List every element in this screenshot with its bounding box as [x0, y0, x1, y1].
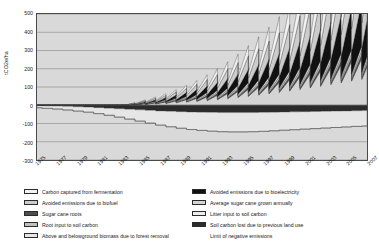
stacked-area-plot: [37, 14, 367, 160]
legend-swatch: [192, 200, 206, 205]
legend-item[interactable]: Carbon captured from fermentation: [24, 186, 169, 197]
legend-label: Above and belowground biomass due to for…: [42, 233, 169, 239]
legend-swatch: [192, 222, 206, 227]
x-axis-ticks: 1975197719791981198319851987198919911993…: [36, 162, 368, 186]
legend-column-left: Carbon captured from fermentationAvoided…: [24, 186, 169, 241]
chart-legend: Carbon captured from fermentationAvoided…: [0, 186, 379, 242]
legend-label: Sugar cane roots: [42, 211, 82, 217]
y-axis-tick-label: -100: [1, 121, 33, 127]
y-axis-ticks: 5004003002001000-100-200-300: [0, 0, 33, 161]
legend-item[interactable]: Above and belowground biomass due to for…: [24, 230, 169, 241]
y-axis-tick-label: 0: [1, 103, 33, 109]
legend-item[interactable]: Sugar cane roots: [24, 208, 169, 219]
legend-label: Avoided emissions due to bioelectricity: [210, 189, 299, 195]
legend-label: Root input to soil carbon: [42, 222, 98, 228]
legend-label: Soil carbon lost due to previous land us…: [210, 222, 303, 228]
y-axis-tick-label: 300: [1, 47, 33, 53]
legend-swatch: [192, 189, 206, 194]
legend-swatch: [192, 211, 206, 216]
legend-line-marker: [192, 233, 206, 238]
y-axis-tick-label: 500: [1, 10, 33, 16]
legend-item[interactable]: Limit of negative emissions: [192, 230, 303, 241]
legend-swatch: [24, 189, 38, 194]
legend-item[interactable]: Avoided emissions due to bioelectricity: [192, 186, 303, 197]
legend-column-right: Avoided emissions due to bioelectricityA…: [192, 186, 303, 241]
legend-item[interactable]: Soil carbon lost due to previous land us…: [192, 219, 303, 230]
legend-item[interactable]: Average sugar cane grown annually: [192, 197, 303, 208]
legend-item[interactable]: Root input to soil carbon: [24, 219, 169, 230]
legend-label: Limit of negative emissions: [210, 233, 272, 239]
legend-label: Avoided emissions due to biofuel: [42, 200, 118, 206]
chart-screenshot: tCO2e/ha 5004003002001000-100-200-300 19…: [0, 0, 379, 242]
plot-area: [36, 13, 368, 161]
legend-item[interactable]: Avoided emissions due to biofuel: [24, 197, 169, 208]
y-axis-tick-label: 200: [1, 66, 33, 72]
y-axis-tick-label: 100: [1, 84, 33, 90]
y-axis-tick-label: 400: [1, 29, 33, 35]
legend-swatch: [24, 200, 38, 205]
legend-swatch: [24, 222, 38, 227]
legend-label: Average sugar cane grown annually: [210, 200, 293, 206]
legend-label: Litter input to soil carbon: [210, 211, 267, 217]
y-axis-tick-label: -200: [1, 140, 33, 146]
legend-item[interactable]: Litter input to soil carbon: [192, 208, 303, 219]
y-axis-tick-label: -300: [1, 158, 33, 164]
legend-swatch: [24, 233, 38, 238]
legend-label: Carbon captured from fermentation: [42, 189, 123, 195]
legend-swatch: [24, 211, 38, 216]
